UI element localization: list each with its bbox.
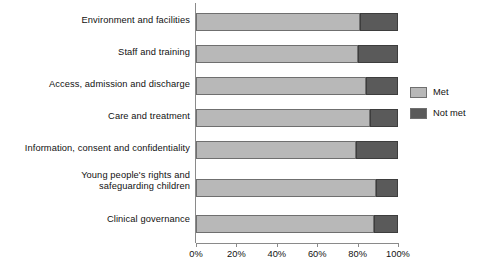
x-axis-tick [236,243,237,247]
category-label: Young people's rights and safeguarding c… [0,170,190,192]
legend-swatch-met [410,87,427,98]
category-label: Information, consent and confidentiality [0,143,190,154]
x-axis-tick-label: 0% [189,249,202,260]
bar-segment-not-met [376,179,398,197]
legend-swatch-not-met [410,108,427,119]
category-label: Access, admission and discharge [0,79,190,90]
bar-segment-not-met [356,141,398,159]
bar-segment-not-met [370,109,398,127]
bar-segment-met [196,141,356,159]
plot-area [196,3,398,243]
legend-label-not-met: Not met [433,108,466,119]
bar-row [196,13,398,31]
bar-row [196,109,398,127]
category-label: Care and treatment [0,111,190,122]
legend-item-not-met[interactable]: Not met [410,105,480,122]
bar-segment-met [196,179,376,197]
bar-segment-not-met [366,77,398,95]
x-axis-tick [196,243,197,247]
category-axis-labels: Environment and facilities Staff and tra… [0,0,190,240]
bar-row [196,179,398,197]
bar-segment-met [196,13,360,31]
bar-row [196,77,398,95]
bar-segment-not-met [374,215,398,233]
bar-segment-met [196,77,366,95]
x-axis-tick-label: 80% [348,249,367,260]
x-axis-tick-label: 60% [308,249,327,260]
legend: Met Not met [410,84,480,126]
stacked-bar-chart: Environment and facilities Staff and tra… [0,0,482,273]
category-label: Clinical governance [0,214,190,225]
x-axis-tick-label: 100% [386,249,410,260]
bar-row [196,45,398,63]
x-axis-line [196,243,398,244]
x-axis-tick-label: 20% [227,249,246,260]
bar-segment-met [196,215,374,233]
bar-row [196,141,398,159]
x-axis-tick [277,243,278,247]
category-label: Staff and training [0,47,190,58]
x-axis-tick [358,243,359,247]
legend-item-met[interactable]: Met [410,84,480,101]
bar-segment-met [196,109,370,127]
legend-label-met: Met [433,87,449,98]
x-axis-tick [317,243,318,247]
bar-row [196,215,398,233]
x-axis-tick [398,243,399,247]
bar-segment-met [196,45,358,63]
x-axis-tick-label: 40% [267,249,286,260]
bar-segment-not-met [360,13,398,31]
bar-segment-not-met [358,45,398,63]
category-label: Environment and facilities [0,15,190,26]
